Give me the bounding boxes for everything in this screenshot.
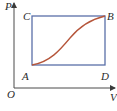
process-curve-a-to-b xyxy=(32,16,105,65)
point-label-c: C xyxy=(23,10,31,22)
pv-diagram: P C B A D O V xyxy=(0,0,117,111)
point-label-a: A xyxy=(21,70,29,82)
origin-label-o: O xyxy=(7,88,15,100)
point-label-b: B xyxy=(107,10,114,22)
axis-label-v: V xyxy=(110,91,117,103)
point-label-d: D xyxy=(100,70,109,82)
axis-label-p: P xyxy=(4,0,12,12)
